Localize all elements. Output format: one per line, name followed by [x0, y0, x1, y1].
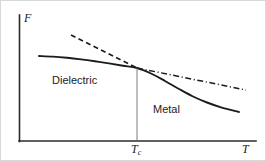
free-energy-diagram: F T Tc Dielectric Metal — [0, 0, 266, 161]
critical-temperature-tick-label: Tc — [131, 143, 141, 155]
dielectric-branch-metastable-above-tc-curve — [137, 68, 246, 90]
region-label-metal: Metal — [153, 104, 180, 115]
region-label-dielectric: Dielectric — [52, 75, 97, 86]
plot-canvas — [1, 1, 266, 161]
x-axis-label: T — [242, 143, 249, 155]
tc-subscript: c — [138, 148, 142, 157]
tc-base: T — [131, 142, 138, 156]
y-axis-label: F — [24, 12, 31, 24]
